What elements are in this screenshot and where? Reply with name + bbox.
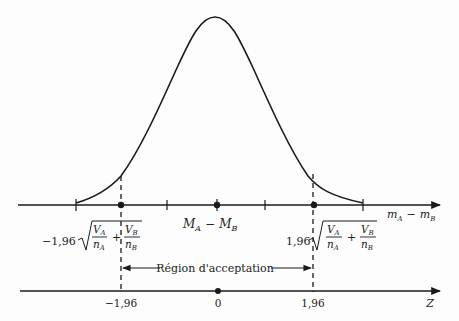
svg-text:1,96: 1,96 [286, 235, 311, 248]
point-right-bound [311, 202, 317, 208]
lower-tick-label-left: −1,96 [105, 297, 137, 309]
lower-tick-label-right: 1,96 [301, 297, 325, 309]
svg-text:VA: VA [93, 223, 106, 237]
svg-text:+: + [112, 231, 121, 244]
diagram-canvas: MA−MB mA−mB −1,96 VA nA + VB nB 1,96 VA … [0, 0, 459, 321]
acceptance-region-label: Région d'acceptation [156, 262, 274, 275]
point-center-mean [214, 202, 220, 208]
lower-point-zero [215, 288, 221, 294]
diagram-svg: MA−MB mA−mB −1,96 VA nA + VB nB 1,96 VA … [0, 0, 459, 321]
lower-axis-label: Z [425, 297, 434, 310]
right-bound-formula: 1,96 VA nA + VB nB [286, 221, 377, 252]
svg-text:nA: nA [327, 238, 339, 252]
svg-text:nB: nB [125, 238, 137, 252]
normal-curve [76, 17, 363, 203]
svg-text:nB: nB [361, 238, 373, 252]
svg-text:VB: VB [125, 223, 138, 237]
center-label: MA−MB [182, 217, 237, 233]
svg-text:VB: VB [361, 223, 374, 237]
svg-text:VA: VA [327, 223, 340, 237]
svg-text:+: + [347, 231, 356, 244]
upper-axis-label: mA−mB [387, 208, 435, 223]
lower-tick-label-zero: 0 [215, 297, 222, 309]
left-bound-formula: −1,96 VA nA + VB nB [42, 221, 142, 252]
svg-text:nA: nA [93, 238, 105, 252]
svg-text:−1,96: −1,96 [42, 235, 76, 248]
